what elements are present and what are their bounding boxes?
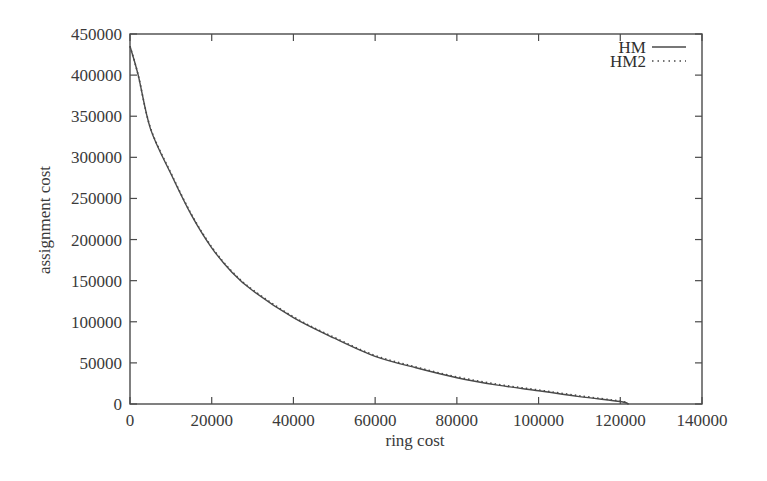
x-tick-label: 20000 bbox=[190, 411, 233, 430]
y-tick-label: 400000 bbox=[71, 66, 122, 85]
x-tick-label: 40000 bbox=[272, 411, 315, 430]
legend-label-hm2: HM2 bbox=[610, 52, 646, 71]
plot-border bbox=[130, 34, 702, 404]
y-tick-label: 300000 bbox=[71, 148, 122, 167]
x-tick-label: 140000 bbox=[677, 411, 728, 430]
x-tick-label: 120000 bbox=[595, 411, 646, 430]
y-tick-label: 100000 bbox=[71, 313, 122, 332]
x-tick-label: 80000 bbox=[436, 411, 479, 430]
y-tick-label: 200000 bbox=[71, 231, 122, 250]
y-tick-label: 0 bbox=[114, 395, 123, 414]
x-tick-label: 0 bbox=[126, 411, 135, 430]
x-tick-label: 100000 bbox=[513, 411, 564, 430]
x-tick-label: 60000 bbox=[354, 411, 397, 430]
y-tick-label: 450000 bbox=[71, 25, 122, 44]
legend: HM HM2 bbox=[610, 38, 686, 71]
series-line-hm2 bbox=[130, 46, 629, 404]
y-axis-label: assignment cost bbox=[35, 166, 54, 274]
series-lines bbox=[130, 46, 629, 404]
series-line-hm bbox=[130, 46, 629, 404]
y-tick-label: 150000 bbox=[71, 272, 122, 291]
plot-frame bbox=[130, 34, 702, 404]
y-tick-label: 350000 bbox=[71, 107, 122, 126]
y-tick-label: 250000 bbox=[71, 189, 122, 208]
x-axis-label: ring cost bbox=[385, 431, 444, 450]
y-axis: 0500001000001500002000002500003000003500… bbox=[71, 25, 702, 414]
line-chart: 0500001000001500002000002500003000003500… bbox=[0, 0, 767, 481]
y-tick-label: 50000 bbox=[80, 354, 123, 373]
chart-canvas: 0500001000001500002000002500003000003500… bbox=[0, 0, 767, 481]
